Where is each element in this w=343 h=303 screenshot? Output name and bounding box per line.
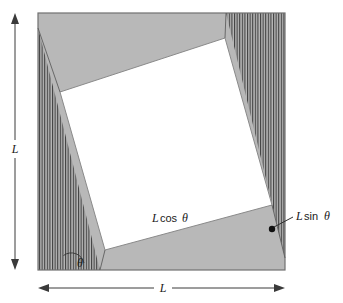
l-cos-theta-fn: cos [160,212,178,224]
l-sin-theta-label: L sin θ [295,209,330,223]
l-sin-theta-var: L [295,209,303,223]
vertical-dimension-label: L [11,142,19,156]
horizontal-dimension-label: L [159,281,167,295]
rotated-square-figure: L L L cos θ L sin θ θ [0,0,343,303]
l-cos-theta-var: L [151,211,159,225]
l-cos-theta-angle: θ [182,211,188,225]
geometry-diagram-root: L L L cos θ L sin θ θ [0,0,343,303]
angle-theta-label: θ [77,256,83,270]
l-cos-theta-label: L cos θ [151,211,188,225]
l-sin-theta-fn: sin [304,210,318,222]
l-sin-theta-angle: θ [324,209,330,223]
